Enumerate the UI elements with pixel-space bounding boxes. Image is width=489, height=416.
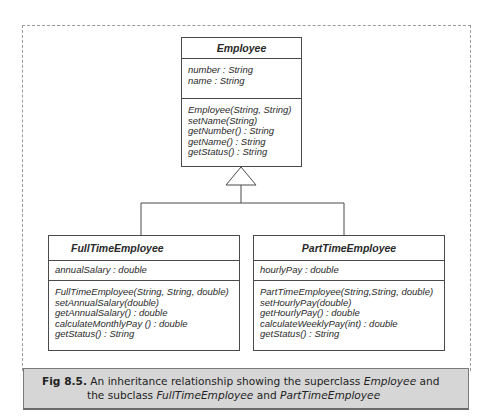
caption-text: and	[416, 375, 439, 387]
method: PartTimeEmployee(String,String, double)	[260, 287, 438, 298]
caption-text: and	[253, 389, 280, 401]
caption-text: An inheritance relationship showing the …	[87, 375, 364, 387]
method: FullTimeEmployee(String, String, double)	[55, 287, 233, 298]
caption-line-2: the subclass FullTimeEmployee and PartTi…	[42, 388, 460, 402]
class-attributes: number : String name : String	[182, 59, 301, 99]
caption-emphasis: PartTimeEmployee	[280, 389, 380, 401]
attribute: number : String	[188, 65, 295, 76]
caption-text: the subclass	[87, 389, 156, 401]
class-name: FullTimeEmployee	[49, 236, 239, 261]
class-name: PartTimeEmployee	[254, 236, 444, 261]
class-fulltimeemployee: FullTimeEmployee annualSalary : double F…	[48, 235, 240, 351]
figure-label: Fig 8.5.	[42, 375, 87, 387]
method: getStatus() : String	[188, 147, 295, 158]
class-attributes: annualSalary : double	[49, 261, 239, 281]
class-methods: FullTimeEmployee(String, String, double)…	[49, 281, 239, 344]
class-attributes: hourlyPay : double	[254, 261, 444, 281]
figure-caption: Fig 8.5. An inheritance relationship sho…	[23, 368, 469, 410]
class-methods: PartTimeEmployee(String,String, double) …	[254, 281, 444, 344]
attribute: name : String	[188, 76, 295, 87]
class-parttimeemployee: PartTimeEmployee hourlyPay : double Part…	[253, 235, 445, 351]
attribute: hourlyPay : double	[260, 265, 438, 276]
method: Employee(String, String)	[188, 105, 295, 116]
class-methods: Employee(String, String) setName(String)…	[182, 99, 301, 162]
method: getStatus() : String	[260, 329, 438, 340]
method: getStatus() : String	[55, 329, 233, 340]
generalization-arrowhead-icon	[226, 167, 256, 185]
attribute: annualSalary : double	[55, 265, 233, 276]
class-name: Employee	[182, 38, 301, 59]
caption-emphasis: Employee	[364, 375, 416, 387]
class-employee: Employee number : String name : String E…	[181, 37, 302, 167]
caption-emphasis: FullTimeEmployee	[156, 389, 253, 401]
